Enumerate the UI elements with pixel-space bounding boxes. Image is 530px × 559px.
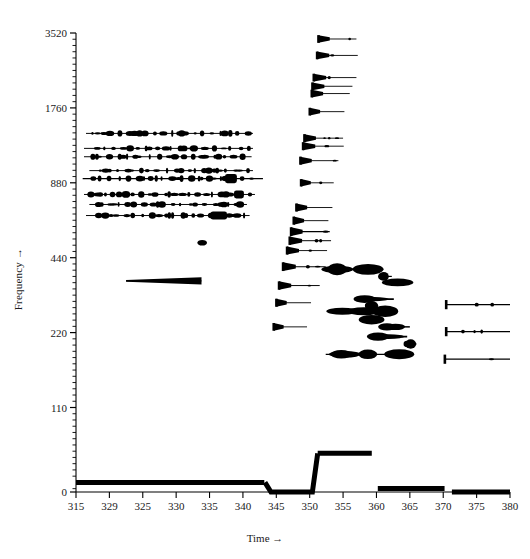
axis-lines <box>76 33 510 492</box>
track-partial-d3 <box>314 74 357 82</box>
track-partial-d5 <box>312 90 350 98</box>
partial-tracks <box>76 35 510 492</box>
track-partial-d8 <box>303 142 344 150</box>
track-partial-d15 <box>287 247 327 255</box>
track-partial-d11 <box>296 203 332 211</box>
track-partial-d6 <box>310 108 345 116</box>
track-partial-d17 <box>279 281 320 289</box>
track-partial-d14 <box>290 236 331 244</box>
track-partial-d19 <box>274 323 307 331</box>
track-partial-d2 <box>317 52 358 60</box>
track-partial-b1 <box>126 277 201 284</box>
track-partial-d18 <box>276 299 311 307</box>
figure-root: Frequency → Time → 352017608804402201100… <box>0 0 530 559</box>
track-partial-d4 <box>312 82 352 90</box>
track-partial-d12 <box>294 217 329 225</box>
track-partial-d10 <box>301 179 334 186</box>
partial-track-plot <box>0 0 530 559</box>
track-f0-contour-dip <box>265 453 318 492</box>
